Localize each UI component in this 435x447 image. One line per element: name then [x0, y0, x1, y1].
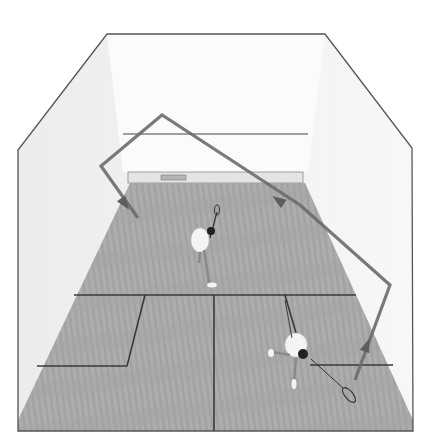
tin-board: [128, 172, 303, 183]
vent: [161, 175, 186, 180]
squash-court-figure: Overhead view of a squash court with two…: [0, 0, 435, 447]
court-illustration: [0, 0, 435, 447]
front-wall: [107, 34, 325, 173]
